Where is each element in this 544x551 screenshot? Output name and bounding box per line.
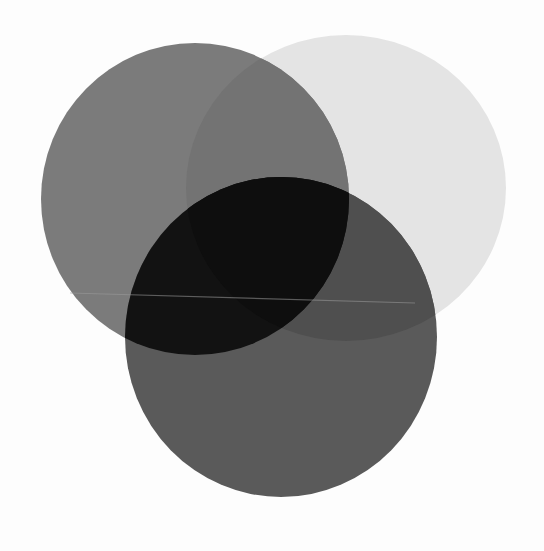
image-canvas: Three overlapping translucent grey circu… [0,0,544,551]
overlapping-circles-figure [0,0,544,551]
